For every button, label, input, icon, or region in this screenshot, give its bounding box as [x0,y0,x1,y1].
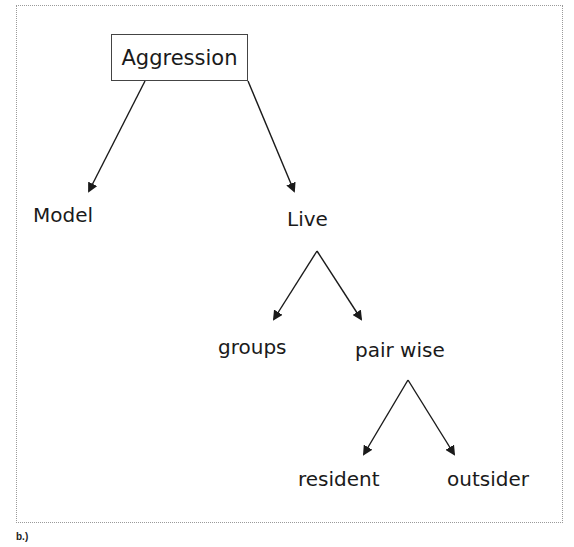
node-model: Model [33,205,93,225]
arrow-layer [0,0,574,547]
arrow-pairwise-to-resident [364,380,408,454]
node-groups: groups [218,337,287,357]
node-live: Live [287,209,328,229]
root-node-label: Aggression [122,46,238,70]
node-resident: resident [298,469,380,489]
root-node-box: Aggression [111,34,248,81]
arrow-live-to-pair-wise [317,251,361,319]
node-pair-wise: pair wise [355,340,445,360]
arrow-aggression-to-live [248,81,294,191]
arrow-live-to-groups [274,251,317,319]
arrow-pairwise-to-outsider [408,380,454,454]
figure-caption: b.) [16,531,28,542]
arrow-aggression-to-model [89,81,145,191]
node-outsider: outsider [447,469,529,489]
